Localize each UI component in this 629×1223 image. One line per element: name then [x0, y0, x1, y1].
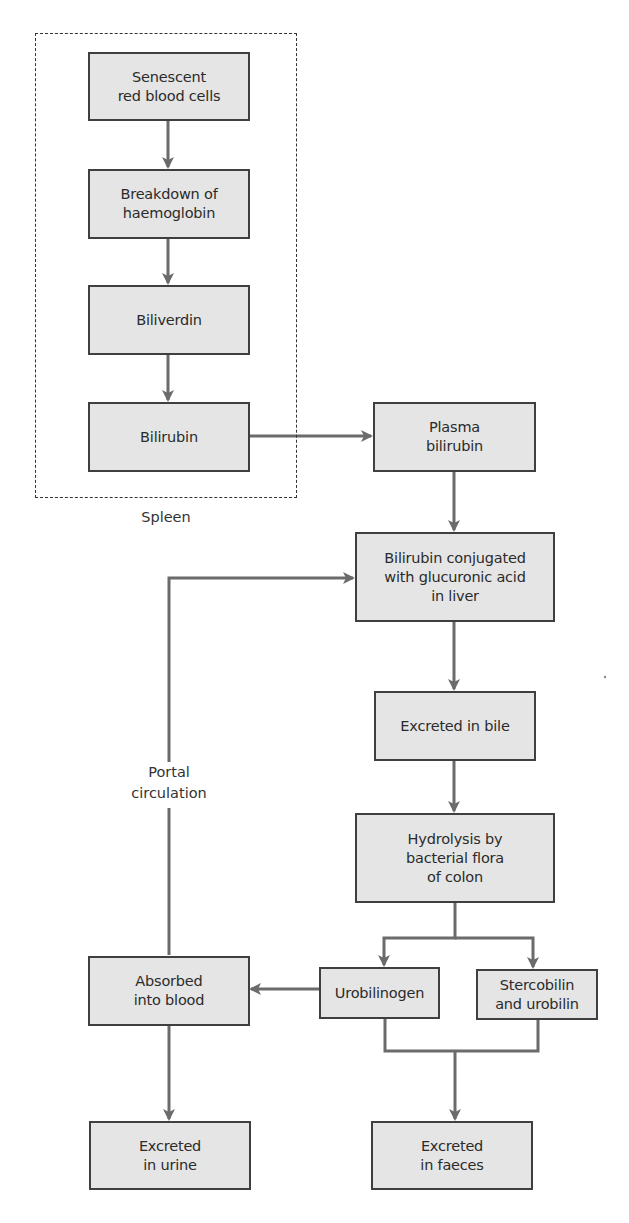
spleen-label: Spleen — [118, 507, 214, 528]
node-bilirubin: Bilirubin — [88, 402, 250, 472]
node-senescent-rbc: Senescent red blood cells — [88, 52, 250, 121]
portal-line-upper — [169, 578, 353, 762]
node-hydrolysis-colon: Hydrolysis by bacterial flora of colon — [355, 813, 555, 903]
join-line-faeces — [385, 1019, 538, 1051]
node-breakdown-haemoglobin: Breakdown of haemoglobin — [88, 169, 250, 239]
stray-dot — [604, 676, 606, 678]
arrow-hydrolysis-to-urobilinogen — [384, 903, 455, 965]
node-stercobilin-urobilin: Stercobilin and urobilin — [476, 969, 598, 1020]
arrow-hydrolysis-to-stercobilin — [455, 938, 533, 967]
bilirubin-metabolism-diagram: Spleen Senescent red blood cells Breakdo… — [0, 0, 629, 1223]
node-biliverdin: Biliverdin — [88, 285, 250, 355]
node-conjugated-liver: Bilirubin conjugated with glucuronic aci… — [355, 532, 555, 622]
node-plasma-bilirubin: Plasma bilirubin — [373, 402, 536, 472]
node-urobilinogen: Urobilinogen — [319, 967, 440, 1019]
node-absorbed-blood: Absorbed into blood — [88, 956, 250, 1026]
node-excreted-urine: Excreted in urine — [89, 1121, 251, 1190]
node-excreted-bile: Excreted in bile — [374, 691, 536, 761]
node-excreted-faeces: Excreted in faeces — [371, 1121, 533, 1190]
portal-circulation-label: Portal circulation — [114, 762, 224, 804]
